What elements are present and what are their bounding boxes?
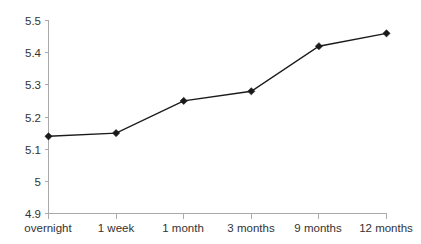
- x-axis-tick-label: 1 week: [98, 222, 135, 234]
- x-axis-tick-label: 12 months: [359, 222, 413, 234]
- series-line: [49, 33, 387, 136]
- x-axis-tick-label: overnight: [24, 222, 72, 234]
- data-series: [45, 30, 390, 140]
- line-chart: 5.5 5.4 5.3 5.2 5.1 5 4.9 overnight 1 we…: [0, 0, 421, 244]
- y-axis-group: 5.5 5.4 5.3 5.2 5.1 5 4.9: [25, 15, 49, 220]
- y-axis-tick-label: 5.2: [25, 112, 41, 124]
- x-axis-tick-label: 3 months: [227, 222, 275, 234]
- data-point-marker: [248, 88, 255, 95]
- x-axis-group: overnight 1 week 1 month 3 months 9 mont…: [24, 214, 413, 235]
- data-point-marker: [45, 133, 52, 140]
- y-axis-tick-label: 5.1: [25, 144, 41, 156]
- data-point-marker: [315, 43, 322, 50]
- chart-canvas: 5.5 5.4 5.3 5.2 5.1 5 4.9 overnight 1 we…: [0, 0, 421, 244]
- data-point-marker: [180, 97, 187, 104]
- x-axis-tick-label: 1 month: [162, 222, 204, 234]
- y-axis-tick-label: 5: [35, 176, 41, 188]
- x-axis-tick-label: 9 months: [294, 222, 342, 234]
- series-markers: [45, 30, 390, 140]
- y-axis-tick-label: 5.5: [25, 15, 41, 27]
- y-axis-tick-label: 5.3: [25, 79, 41, 91]
- y-axis-tick-label: 4.9: [25, 208, 41, 220]
- data-point-marker: [113, 129, 120, 136]
- y-axis-tick-label: 5.4: [25, 47, 42, 59]
- data-point-marker: [383, 30, 390, 37]
